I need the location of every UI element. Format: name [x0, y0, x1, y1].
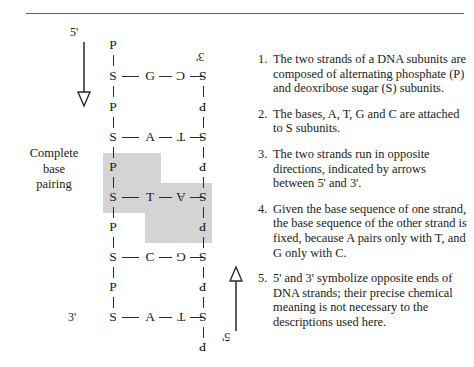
dna-ladder-diagram: Complete base pairing 5' 3' 3' 5' P S G … — [0, 22, 252, 367]
rung-bar — [190, 76, 204, 77]
strand-direction-down-arrow-icon — [76, 42, 92, 118]
base-left: G — [141, 67, 159, 85]
backbone-bar-right — [203, 267, 204, 278]
note-item-5: 5. 5' and 3' symbolize opposite ends of … — [258, 271, 470, 329]
rung-bar — [122, 197, 139, 198]
rung-bar — [159, 257, 172, 258]
base-left: A — [141, 128, 159, 146]
phosphate-left: P — [104, 36, 122, 54]
rung-bar — [159, 76, 172, 77]
backbone-bar-left — [113, 147, 114, 158]
note-item-1: 1. The two strands of a DNA subunits are… — [258, 52, 470, 96]
sugar-left: S — [104, 308, 122, 326]
base-right: T — [172, 128, 190, 146]
phosphate-left: P — [104, 98, 122, 116]
base-right: A — [172, 188, 190, 206]
backbone-bar-left — [113, 237, 114, 248]
base-right: C — [172, 67, 190, 85]
note-number: 2. — [258, 107, 273, 136]
rung-bar — [159, 197, 172, 198]
phosphate-left: P — [104, 158, 122, 176]
note-number: 3. — [258, 147, 273, 191]
note-text: The two strands run in opposite directio… — [273, 147, 470, 191]
base-left: T — [141, 188, 159, 206]
backbone-bar-right — [203, 177, 204, 188]
phosphate-right: P — [194, 98, 212, 116]
note-number: 1. — [258, 52, 273, 96]
note-text: Given the base sequence of one strand, t… — [273, 202, 470, 260]
note-text: 5' and 3' symbolize opposite ends of DNA… — [273, 271, 470, 329]
label-5-prime-top-left: 5' — [70, 26, 78, 39]
base-left: C — [141, 248, 159, 266]
backbone-bar-right — [203, 207, 204, 218]
backbone-bar-right — [203, 297, 204, 308]
complete-base-pairing-caption: Complete base pairing — [8, 146, 100, 193]
sugar-left: S — [104, 67, 122, 85]
rung-bar — [190, 137, 204, 138]
rung-bar — [122, 257, 139, 258]
note-item-4: 4. Given the base sequence of one strand… — [258, 202, 470, 260]
phosphate-right: P — [194, 338, 212, 356]
caption-line-1: Complete — [8, 146, 100, 162]
note-text: The two strands of a DNA subunits are co… — [273, 52, 470, 96]
rung-bar — [122, 137, 139, 138]
ladder-rows: P S G C S P P S A T S — [0, 22, 252, 367]
backbone-bar-right — [203, 147, 204, 158]
backbone-bar-left — [113, 117, 114, 128]
backbone-bar-left — [113, 267, 114, 278]
ladder-row-phosphate-2: P P — [0, 98, 252, 116]
backbone-bar-right — [203, 117, 204, 128]
ladder-row-phosphate-5: P P — [0, 278, 252, 296]
backbone-bar-left — [113, 207, 114, 218]
caption-line-3: pairing — [8, 177, 100, 193]
backbone-bar-right — [203, 327, 204, 338]
note-text: The bases, A, T, G and C are attached to… — [273, 107, 470, 136]
notes-list: 1. The two strands of a DNA subunits are… — [258, 52, 470, 341]
backbone-bar-left — [113, 297, 114, 308]
label-3-prime-top-right: 3' — [196, 50, 204, 63]
backbone-bar-right — [203, 237, 204, 248]
sugar-left: S — [104, 128, 122, 146]
label-3-prime-bottom-left: 3' — [68, 311, 76, 324]
rung-bar — [122, 317, 139, 318]
strand-direction-up-arrow-icon — [228, 259, 244, 335]
backbone-bar-left — [113, 55, 114, 66]
backbone-bar-right — [203, 86, 204, 97]
note-number: 5. — [258, 271, 273, 329]
ladder-row-phosphate-1: P — [0, 36, 252, 54]
phosphate-right: P — [194, 158, 212, 176]
phosphate-left: P — [104, 218, 122, 236]
top-divider-rule — [26, 13, 464, 14]
backbone-bar-left — [113, 86, 114, 97]
phosphate-right: P — [194, 218, 212, 236]
base-right: T — [172, 308, 190, 326]
ladder-row-phosphate-6: P — [0, 338, 252, 356]
rung-bar — [122, 76, 139, 77]
rung-bar — [190, 317, 204, 318]
rung-bar — [159, 317, 172, 318]
note-item-3: 3. The two strands run in opposite direc… — [258, 147, 470, 191]
note-number: 4. — [258, 202, 273, 260]
rung-bar — [190, 257, 204, 258]
base-left: A — [141, 308, 159, 326]
note-item-2: 2. The bases, A, T, G and C are attached… — [258, 107, 470, 136]
backbone-bar-left — [113, 177, 114, 188]
base-right: G — [172, 248, 190, 266]
ladder-row-phosphate-4: P P — [0, 218, 252, 236]
rung-bar — [190, 197, 204, 198]
sugar-left: S — [104, 188, 122, 206]
caption-line-2: base — [8, 162, 100, 178]
phosphate-right: P — [194, 278, 212, 296]
rung-bar — [159, 137, 172, 138]
sugar-left: S — [104, 248, 122, 266]
phosphate-left: P — [104, 278, 122, 296]
